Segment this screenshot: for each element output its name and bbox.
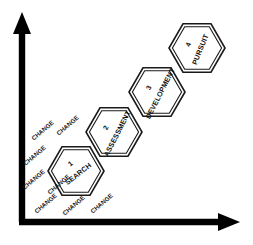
change-label: CHANGE [55, 114, 80, 137]
change-process-diagram: 1SEARCH2ASSESSMENT3DEVELOPMENT4PURSUIT C… [0, 0, 253, 245]
hexagon-stage-2[interactable]: 2ASSESSMENT [86, 108, 142, 158]
change-label: CHANGE [33, 192, 58, 215]
change-label: CHANGE [89, 192, 114, 215]
hexagons-group: 1SEARCH2ASSESSMENT3DEVELOPMENT4PURSUIT [48, 24, 225, 196]
change-label: CHANGE [22, 144, 47, 167]
diagram-canvas: 1SEARCH2ASSESSMENT3DEVELOPMENT4PURSUIT C… [0, 0, 253, 245]
vertical-axis-arrow [13, 12, 31, 222]
hexagon-stage-4[interactable]: 4PURSUIT [169, 24, 225, 73]
horizontal-axis-arrow [19, 213, 240, 231]
change-label: CHANGE [30, 119, 55, 142]
change-label: CHANGE [61, 194, 86, 217]
hexagon-stage-3[interactable]: 3DEVELOPMENT [129, 66, 185, 120]
